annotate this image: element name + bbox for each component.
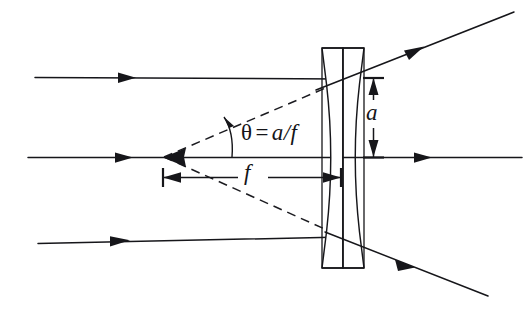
theta-angle-arc (224, 117, 234, 157)
focal-length-label: f (244, 160, 250, 186)
focal-dim-left-arrowhead (163, 172, 181, 182)
aperture-label: a (366, 100, 378, 126)
virtual-rays-group (163, 75, 356, 243)
theta-symbol: θ (241, 120, 252, 145)
upper-parallel-ray-arrowhead (118, 73, 136, 84)
optics-figure: θ=a/f a f (0, 0, 532, 315)
upper-diverged-ray-arrowhead (404, 47, 424, 61)
lower-diverged-ray-arrowhead (395, 260, 415, 272)
upper-parallel-ray (35, 73, 341, 84)
theta-slash: / (284, 120, 291, 145)
incoming-rays-group (28, 73, 343, 247)
virtual-focus-arrowhead (163, 148, 186, 167)
focal-length-dimension (163, 168, 341, 187)
equals-symbol: = (252, 120, 271, 145)
theta-numerator: a (272, 120, 284, 145)
axial-incoming-ray (28, 153, 343, 163)
aperture-dim-top-arrowhead (369, 78, 379, 95)
theta-arc-arrowhead (224, 117, 234, 128)
theta-denominator: f (291, 120, 298, 145)
theta-equation-label: θ=a/f (241, 120, 297, 146)
lower-parallel-ray (38, 236, 343, 246)
axial-outgoing-ray-arrowhead (414, 153, 432, 163)
ray-diagram-svg (0, 0, 532, 315)
aperture-dim-bottom-arrowhead (369, 140, 379, 157)
axial-incoming-ray-arrowhead (115, 153, 133, 163)
